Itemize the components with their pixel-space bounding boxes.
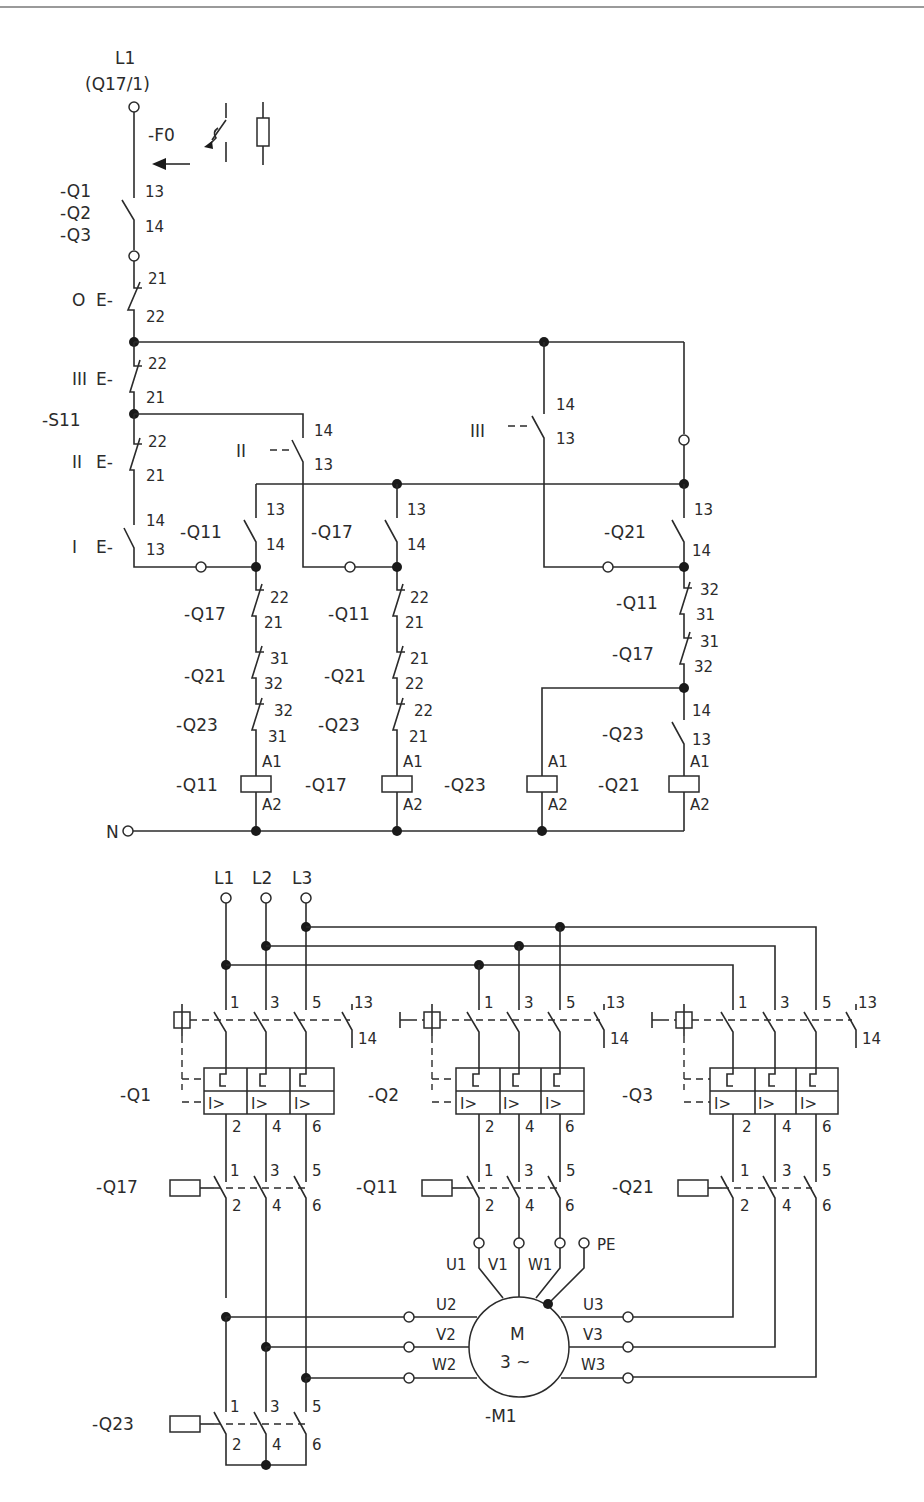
magnetic-trip-label: I>: [545, 1095, 562, 1113]
terminal-label: 13: [145, 183, 164, 201]
terminal-label: 6: [312, 1197, 322, 1215]
terminal-label: 5: [822, 1162, 832, 1180]
motor-icon: [469, 1297, 569, 1397]
terminal-label: 3: [270, 1398, 280, 1416]
terminal-label: 1: [230, 1162, 240, 1180]
terminal-label: 31: [696, 606, 715, 624]
terminal-label: 21: [264, 614, 283, 632]
terminal-label: W3: [581, 1356, 605, 1374]
terminal-label: PE: [597, 1236, 616, 1254]
coil-icon: [669, 776, 699, 792]
device-label: -Q21: [604, 522, 646, 542]
neutral-terminal: [123, 826, 133, 836]
terminal-label: 13: [314, 456, 333, 474]
terminal-label: 13: [266, 501, 285, 519]
phase-l1: L1: [214, 868, 234, 888]
terminal-label: 22: [148, 433, 167, 451]
terminal-label: 31: [268, 728, 287, 746]
device-label: -Q11: [356, 1177, 398, 1197]
breaker-q2: 1 3 5 13 14 I> I> I> -Q2 2 4 6: [368, 994, 629, 1136]
terminal-label: 13: [606, 994, 625, 1012]
terminal-label: 22: [410, 589, 429, 607]
terminal-label: 5: [566, 994, 576, 1012]
actuator-glyph: E-: [96, 369, 113, 389]
terminal-label: 2: [232, 1197, 242, 1215]
terminal-label: 3: [782, 1162, 792, 1180]
terminal-label: V1: [488, 1256, 508, 1274]
terminal-label: 4: [782, 1118, 792, 1136]
supply-label: L1: [115, 48, 135, 68]
coil-icon: [422, 1180, 452, 1196]
device-label: -Q11: [328, 604, 370, 624]
terminal-label: 21: [405, 614, 424, 632]
branch-q11: 13 14 -Q11 -Q17 22 21 -Q21 31 32 -Q23 32…: [176, 484, 293, 831]
device-label: -Q23: [176, 715, 218, 735]
terminal-label: A1: [403, 753, 423, 771]
terminal-label: 3: [524, 994, 534, 1012]
terminal-label: 1: [230, 994, 240, 1012]
terminal-label: A1: [262, 753, 282, 771]
terminal-label: 14: [145, 218, 164, 236]
terminal-label: 2: [485, 1118, 495, 1136]
terminal-label: 22: [148, 355, 167, 373]
terminal-label: 14: [556, 396, 575, 414]
terminal-label: 13: [146, 541, 165, 559]
terminal-label: 2: [742, 1118, 752, 1136]
terminal-label: A2: [548, 796, 568, 814]
device-label: -Q23: [318, 715, 360, 735]
terminal-label: 2: [485, 1197, 495, 1215]
terminal-label: 5: [312, 1162, 322, 1180]
terminal-label: 21: [148, 270, 167, 288]
terminal-label: A1: [548, 753, 568, 771]
magnetic-trip-label: I>: [294, 1095, 311, 1113]
terminal-label: 21: [146, 389, 165, 407]
terminal-label: 6: [565, 1197, 575, 1215]
terminal-label: 4: [272, 1197, 282, 1215]
terminal-label: U2: [436, 1296, 457, 1314]
pos-o-label: O: [72, 290, 85, 310]
terminal-label: 5: [822, 994, 832, 1012]
device-label: -Q17: [96, 1177, 138, 1197]
terminal-label: 32: [274, 702, 293, 720]
actuator-glyph: E-: [96, 452, 113, 472]
terminal-label: 14: [146, 512, 165, 530]
contactor-q23: 1 3 5 2 4 6 -Q23: [92, 1398, 322, 1470]
contactor-q11: 1 3 5 2 4 6 -Q11: [356, 1114, 576, 1238]
magnetic-trip-label: I>: [251, 1095, 268, 1113]
terminal-label: 22: [405, 675, 424, 693]
terminal-label: 1: [484, 994, 494, 1012]
device-label: -Q11: [616, 593, 658, 613]
terminal-label: 31: [270, 650, 289, 668]
fuse-breaker-icon: [204, 103, 226, 162]
control-circuit: L1 (Q17/1) -F0 -Q1 -Q2 -Q3 13 14 O: [42, 48, 719, 842]
pos-ii-label: II: [72, 452, 82, 472]
breaker-q3: 1 3 5 13 14 I> I> I> -Q3 2 4 6: [622, 994, 881, 1136]
device-label: -Q21: [612, 1177, 654, 1197]
terminal-label: 14: [610, 1030, 629, 1048]
magnetic-trip-label: I>: [714, 1095, 731, 1113]
device-label: -Q11: [180, 522, 222, 542]
device-label: -Q17: [612, 644, 654, 664]
terminal-label: 1: [484, 1162, 494, 1180]
motor-m1: M 3 ~ -M1 U1 V1 W1 PE U2 V2 W2: [404, 1236, 633, 1426]
terminal-label: 4: [525, 1197, 535, 1215]
device-label: -Q11: [176, 775, 218, 795]
terminal-label: 13: [407, 501, 426, 519]
contactor-q17: 1 3 5 2 4 6 -Q17: [96, 1114, 322, 1378]
aux-q1: -Q1: [60, 181, 91, 201]
terminal-label: U3: [583, 1296, 604, 1314]
phase-l3: L3: [292, 868, 312, 888]
terminal-label: 4: [782, 1197, 792, 1215]
terminal-label: 1: [740, 1162, 750, 1180]
terminal-label: 2: [232, 1436, 242, 1454]
terminal-label: 32: [694, 658, 713, 676]
device-label: -Q2: [368, 1085, 399, 1105]
coil-icon: [382, 776, 412, 792]
device-label: -Q3: [622, 1085, 653, 1105]
terminal-label: 6: [565, 1118, 575, 1136]
device-label: -Q17: [311, 522, 353, 542]
coil-icon: [678, 1180, 708, 1196]
terminal-label: 21: [409, 728, 428, 746]
terminal-label: 13: [354, 994, 373, 1012]
pos-iii-label: III: [470, 421, 485, 441]
